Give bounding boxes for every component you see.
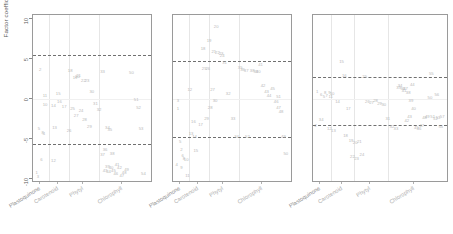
data-point-label: 13 bbox=[52, 126, 57, 130]
data-point-label: 11 bbox=[43, 94, 47, 98]
data-point-label: 18 bbox=[201, 46, 206, 50]
data-point-label: 53 bbox=[139, 126, 144, 130]
data-point-label: 5 bbox=[38, 127, 40, 131]
data-point-label: 50 bbox=[283, 152, 288, 156]
data-point-label: 30 bbox=[213, 99, 218, 103]
data-point-label: 49 bbox=[281, 135, 286, 139]
data-point-label: 2 bbox=[39, 68, 41, 72]
scatter-panel: 3152648910111213141516171819202122232425… bbox=[172, 14, 292, 182]
data-point-label: 14 bbox=[51, 104, 56, 108]
data-point-label: 45 bbox=[270, 86, 275, 90]
data-point-label: 20 bbox=[214, 25, 219, 29]
data-point-label: 10 bbox=[43, 103, 48, 107]
data-point-label: 44 bbox=[267, 94, 272, 98]
data-point-label: 4 bbox=[175, 162, 177, 166]
data-point-label: 21 bbox=[76, 74, 81, 78]
data-point-label: 46 bbox=[274, 100, 279, 104]
x-tick-mark bbox=[82, 182, 83, 184]
data-point-label: 52 bbox=[245, 135, 250, 139]
data-point-label: 17 bbox=[346, 107, 351, 111]
data-point-label: 41 bbox=[258, 62, 263, 66]
category-gridline bbox=[388, 15, 389, 181]
category-gridline bbox=[49, 15, 50, 181]
y-tick-label: 0 bbox=[23, 98, 29, 101]
figure-root: Factor coefficient 1050-5-10 21110513684… bbox=[0, 0, 453, 234]
x-tick-mark bbox=[341, 182, 342, 184]
data-point-label: 33 bbox=[100, 70, 105, 74]
data-point-label: 29 bbox=[87, 125, 92, 129]
data-point-label: 10 bbox=[184, 158, 189, 162]
x-tick-mark bbox=[319, 182, 320, 184]
data-point-label: 16 bbox=[191, 120, 196, 124]
data-point-label: 30 bbox=[89, 90, 94, 94]
data-point-label: 8 bbox=[324, 90, 326, 94]
data-point-label: 32 bbox=[97, 108, 102, 112]
data-point-label: 23 bbox=[85, 78, 90, 82]
data-point-label: 46 bbox=[113, 172, 118, 176]
data-point-label: 33 bbox=[394, 126, 399, 130]
x-tick-mark bbox=[261, 182, 262, 184]
data-point-label: 33 bbox=[231, 117, 236, 121]
category-gridline bbox=[239, 15, 240, 181]
data-point-label: 1 bbox=[316, 90, 318, 94]
data-point-label: 3 bbox=[177, 98, 179, 102]
data-point-label: 14 bbox=[192, 135, 197, 139]
data-point-label: 24 bbox=[360, 153, 365, 157]
data-point-label: 25 bbox=[70, 107, 75, 111]
data-point-label: 5 bbox=[179, 140, 181, 144]
data-point-label: 21 bbox=[357, 140, 362, 144]
threshold-line bbox=[313, 125, 447, 126]
data-point-label: 12 bbox=[51, 159, 56, 163]
data-point-label: 29 bbox=[204, 117, 209, 121]
data-point-label: 31 bbox=[222, 61, 227, 65]
data-point-label: 47 bbox=[419, 124, 424, 128]
data-point-label: 42 bbox=[261, 84, 266, 88]
data-point-label: 14 bbox=[335, 100, 340, 104]
data-point-label: 25 bbox=[362, 74, 367, 78]
data-point-label: 6 bbox=[40, 158, 42, 162]
data-point-label: 31 bbox=[93, 102, 98, 106]
data-point-label: 28 bbox=[208, 106, 213, 110]
x-tick-mark bbox=[39, 182, 40, 184]
y-tick-label: -5 bbox=[23, 138, 29, 143]
data-point-label: 26 bbox=[205, 67, 210, 71]
data-point-label: 11 bbox=[328, 94, 332, 98]
data-point-label: 23 bbox=[354, 157, 359, 161]
data-point-label: 3 bbox=[37, 175, 39, 179]
data-point-label: 39 bbox=[409, 98, 414, 102]
data-point-label: 43 bbox=[407, 115, 412, 119]
data-point-label: 49 bbox=[124, 168, 129, 172]
threshold-line bbox=[33, 144, 151, 145]
x-tick-mark bbox=[369, 182, 370, 184]
data-point-label: 37 bbox=[244, 69, 249, 73]
data-point-label: 30 bbox=[381, 103, 386, 107]
y-tick-label: 5 bbox=[23, 58, 29, 61]
data-point-label: 18 bbox=[343, 134, 348, 138]
data-point-label: 19 bbox=[207, 38, 212, 42]
data-point-label: 55 bbox=[429, 72, 434, 76]
scatter-panel: 2111051368412131415161718192021222324252… bbox=[32, 14, 152, 182]
category-gridline bbox=[189, 15, 190, 181]
category-gridline bbox=[69, 15, 70, 181]
x-tick-mark bbox=[222, 182, 223, 184]
data-point-label: 52 bbox=[136, 106, 141, 110]
data-point-label: 15 bbox=[339, 60, 344, 64]
data-point-label: 31 bbox=[385, 117, 390, 121]
data-point-label: 48 bbox=[279, 110, 284, 114]
threshold-line bbox=[173, 61, 291, 62]
data-point-label: 50 bbox=[129, 70, 134, 74]
data-point-label: 13 bbox=[331, 129, 336, 133]
data-point-label: 49 bbox=[425, 115, 430, 119]
data-point-label: 57 bbox=[440, 115, 445, 119]
data-point-label: 35 bbox=[107, 128, 112, 132]
data-point-label: 27 bbox=[74, 114, 79, 118]
data-point-label: 2 bbox=[315, 124, 317, 128]
data-point-label: 56 bbox=[434, 93, 439, 97]
data-point-label: 34 bbox=[234, 134, 239, 138]
data-point-label: 38 bbox=[110, 152, 115, 156]
data-point-label: 32 bbox=[226, 92, 231, 96]
data-point-label: 41 bbox=[402, 89, 407, 93]
data-point-label: 50 bbox=[428, 96, 433, 100]
y-tick-label: -10 bbox=[23, 178, 29, 186]
threshold-line bbox=[33, 55, 151, 56]
